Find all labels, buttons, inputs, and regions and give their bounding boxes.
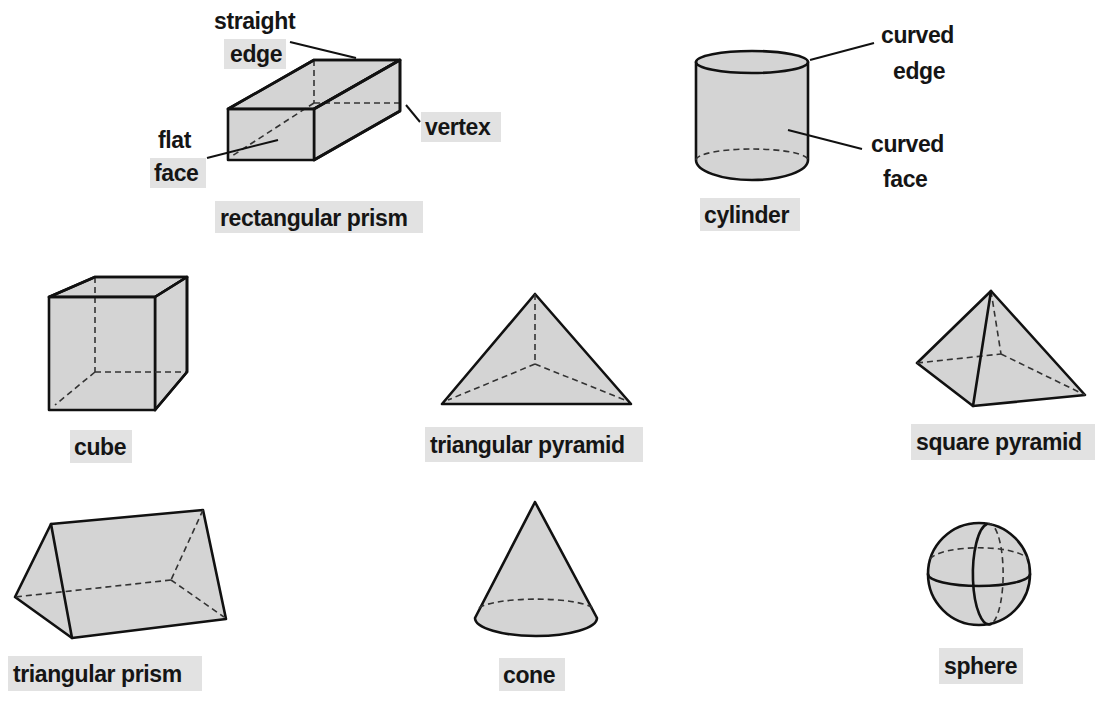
annotation-vertex: vertex [425, 114, 491, 140]
label-cylinder: cylinder [704, 202, 789, 228]
sphere-figure [928, 523, 1030, 625]
annotation-curved-edge-line2: edge [893, 58, 945, 84]
cone-figure [475, 502, 597, 636]
cube-figure [49, 277, 187, 410]
label-cube: cube [74, 434, 126, 460]
cylinder-figure [696, 51, 808, 180]
shapes-diagram: straight edge vertex flat face rectangul… [0, 0, 1116, 714]
annotation-curved-face-line2: face [883, 166, 927, 192]
square-pyramid-figure [917, 291, 1085, 406]
curved-edge-leader [810, 43, 874, 60]
rectangular-prism-figure [228, 60, 400, 160]
label-cone: cone [503, 662, 555, 688]
label-sphere: sphere [944, 653, 1017, 679]
annotation-straight: straight [214, 8, 296, 34]
straight-edge-leader [290, 42, 356, 58]
annotation-curved-face-line1: curved [871, 131, 944, 157]
annotation-edge: edge [230, 41, 282, 67]
triangular-pyramid-figure [442, 294, 631, 404]
annotation-curved-edge-line1: curved [881, 22, 954, 48]
vertex-leader [406, 105, 420, 122]
label-square-pyramid: square pyramid [916, 429, 1082, 455]
label-rectangular-prism: rectangular prism [220, 205, 408, 231]
annotation-face: face [154, 160, 198, 186]
annotation-flat: flat [158, 127, 192, 153]
label-triangular-pyramid: triangular pyramid [430, 432, 625, 458]
triangular-prism-figure [15, 510, 226, 638]
label-triangular-prism: triangular prism [13, 661, 182, 687]
